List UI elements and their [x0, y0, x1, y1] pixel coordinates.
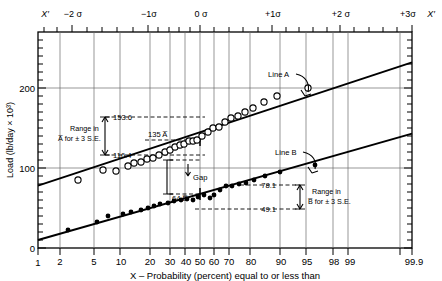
annotation-mean-b: 64 B̅: [172, 194, 188, 203]
sigma-label-minus2: −2 σ: [64, 9, 83, 19]
x-tick-label-10: 10: [116, 256, 127, 267]
data-point: [244, 181, 249, 186]
sigma-label-zero: 0 σ: [194, 9, 208, 19]
data-point: [216, 124, 222, 130]
data-point: [144, 156, 150, 162]
annotation-mean-a: 135 A̅: [148, 130, 168, 139]
annotation-range-a-line2: A̅ for ± 3 S.E.: [57, 134, 100, 143]
data-point: [202, 193, 207, 198]
x-tick-label-40: 40: [181, 256, 192, 267]
data-point: [222, 119, 228, 125]
annotation-lower-b: 49.1: [261, 205, 276, 214]
sigma-label-minus1: −1σ: [141, 9, 157, 19]
y-axis-title: Load (lb/day × 10³): [5, 102, 15, 178]
data-point: [228, 115, 234, 121]
data-point: [235, 113, 241, 119]
y-tick-label-0: 0: [30, 243, 35, 254]
series-b-line-label: Line B: [275, 148, 297, 157]
x-tick-label-60: 60: [209, 256, 220, 267]
x-tick-label-1: 1: [35, 257, 40, 268]
annotation-range-b-line2: B̅ for ± 3 S.E.: [307, 197, 350, 206]
data-point: [138, 159, 144, 165]
x-tick-label-99-9: 99.9: [405, 256, 424, 267]
data-point: [66, 228, 71, 233]
data-point: [252, 178, 257, 183]
x-tick-label-70: 70: [224, 256, 235, 267]
data-point: [263, 174, 268, 179]
data-point: [218, 188, 223, 193]
data-point: [106, 214, 111, 219]
data-point: [250, 105, 256, 111]
data-point: [199, 133, 205, 139]
y-tick-label-200: 200: [19, 83, 35, 94]
x-tick-label-5: 5: [91, 256, 96, 267]
x-tick-label-95: 95: [302, 256, 313, 267]
data-point: [210, 125, 216, 131]
x-tick-label-50: 50: [195, 256, 206, 267]
x-tick-label-98: 98: [329, 256, 340, 267]
annotation-upper-b: 78.1: [261, 181, 276, 190]
data-point: [237, 182, 242, 187]
data-point: [212, 193, 217, 198]
x-tick-label-30: 30: [165, 256, 176, 267]
data-point: [129, 210, 134, 215]
annotation-range-a-line1: Range in: [70, 124, 99, 133]
data-point: [274, 93, 280, 99]
data-point: [156, 152, 162, 158]
data-point: [139, 208, 144, 213]
data-point: [131, 160, 137, 166]
data-point: [278, 170, 283, 175]
data-point: [158, 202, 163, 207]
annotation-range-b-line1: Range in: [312, 187, 341, 196]
probability-plot-figure: 200 100 0 Load (lb/day × 10³) 1 2 5 10 2…: [0, 0, 442, 281]
data-point: [152, 204, 157, 209]
sigma-label-plus2: +2 σ: [332, 9, 351, 19]
sigma-label-plus1: +1σ: [265, 9, 281, 19]
data-point: [230, 184, 235, 189]
x-tick-label-20: 20: [145, 256, 156, 267]
data-point: [95, 220, 100, 225]
data-point: [191, 198, 196, 203]
data-point: [113, 168, 119, 174]
data-point: [125, 163, 131, 169]
top-axis-right-symbol: X′: [426, 9, 435, 19]
data-point: [208, 196, 213, 201]
data-point: [261, 99, 267, 105]
data-point: [121, 212, 126, 217]
data-point: [166, 201, 171, 206]
data-point: [224, 184, 229, 189]
x-axis-title: X – Probability (percent) equal to or le…: [130, 270, 320, 281]
data-point: [150, 155, 156, 161]
data-point: [100, 167, 106, 173]
data-point: [242, 109, 248, 115]
top-axis-left-symbol: X′: [40, 9, 49, 19]
y-tick-label-100: 100: [19, 163, 35, 174]
data-point: [146, 206, 151, 211]
annotation-gap: Gap: [193, 173, 207, 182]
annotation-lower-a: 116.4: [113, 151, 131, 160]
x-tick-label-2: 2: [57, 256, 62, 267]
chart-svg: 200 100 0 Load (lb/day × 10³) 1 2 5 10 2…: [0, 0, 442, 281]
data-point: [75, 177, 81, 183]
x-tick-label-90: 90: [276, 256, 287, 267]
annotation-upper-a: 153.6: [113, 113, 132, 122]
x-tick-label-80: 80: [246, 256, 257, 267]
data-point: [196, 195, 201, 200]
series-a-line-label: Line A: [268, 70, 290, 79]
x-tick-label-99: 99: [345, 256, 356, 267]
sigma-label-plus3: +3σ: [400, 9, 416, 19]
